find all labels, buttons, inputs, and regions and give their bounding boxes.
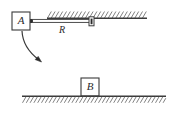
block-b-label: B [87,80,94,92]
ground-hatching [23,96,166,103]
motion-arrow-curve [22,31,39,60]
ceiling-surface [47,12,147,19]
block-b: B [81,78,99,96]
rod-assembly [29,19,91,23]
ground-surface [22,96,166,103]
block-a: A [12,12,30,30]
block-a-label: A [17,14,25,26]
rod-label: R [58,24,65,35]
rod-body [30,19,91,22]
ceiling-slider [89,17,94,26]
physics-diagram: A R B [0,0,177,116]
slider-pin-icon [91,19,93,25]
motion-arrow [22,31,42,62]
ceiling-hatching [48,12,147,19]
diagram-canvas: A R B [0,0,177,116]
